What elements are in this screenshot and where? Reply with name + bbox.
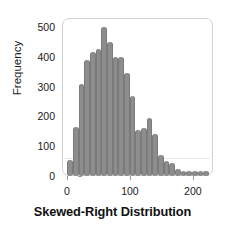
histogram-bar (158, 155, 164, 176)
y-tick-label: 200 (21, 111, 55, 121)
y-tick-label: 0 (21, 171, 55, 181)
x-tick-label: 200 (173, 186, 213, 197)
histogram-bar (169, 163, 175, 176)
x-tick-mark (193, 176, 194, 180)
x-tick-mark (67, 176, 68, 180)
y-tick-label: 400 (21, 52, 55, 62)
histogram-bar (90, 52, 96, 176)
y-tick-label: 100 (21, 141, 55, 151)
histogram-bar (107, 42, 113, 176)
y-tick-label: 500 (21, 22, 55, 32)
x-axis-ticks: 0100200 (62, 176, 213, 206)
histogram-bar (124, 73, 130, 176)
figure-title: Skewed-Right Distribution (0, 204, 225, 219)
x-tick-label: 0 (47, 186, 87, 197)
y-tick-label: 300 (21, 82, 55, 92)
histogram-bar (73, 127, 79, 176)
histogram-bar (175, 169, 181, 176)
histogram-bar (141, 128, 147, 176)
plot-area (62, 18, 213, 176)
histogram-figure: Frequency 0100200300400500 0100200 Skewe… (0, 0, 225, 231)
x-tick-mark (130, 176, 131, 180)
x-tick-label: 100 (110, 186, 150, 197)
